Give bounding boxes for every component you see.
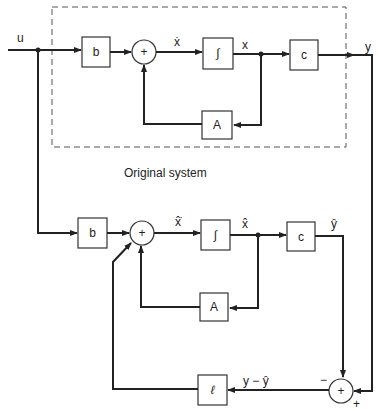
wire-x-to-A: [234, 54, 261, 125]
yhat-label: ŷ: [331, 218, 337, 230]
gain-c-label-observer: c: [287, 230, 315, 244]
input-label-u: u: [17, 32, 24, 44]
sum-symbol-observer: +: [130, 226, 154, 240]
gain-l-label: ℓ: [198, 383, 227, 397]
output-label-y: y: [365, 41, 371, 53]
gain-A-label-observer: A: [200, 300, 228, 314]
original-system-boundary: [52, 7, 346, 147]
integrator-label-top: ∫: [203, 46, 233, 60]
gain-b-label-observer: b: [78, 226, 107, 240]
wire-y-down: [352, 55, 372, 391]
wire-u-to-observer-b: [38, 50, 77, 233]
wire-A-to-sum-observer: [141, 246, 200, 307]
block-diagram: [0, 0, 378, 409]
x-label: x: [242, 39, 248, 51]
xhatdot-label: x̂̇: [175, 216, 181, 228]
gain-b-label-top: b: [82, 45, 110, 59]
wire-A-to-sum: [144, 65, 202, 124]
xdot-label: ẋ: [174, 36, 180, 48]
sum-symbol-error: +: [329, 384, 353, 398]
wire-l-to-sum-observer: [113, 243, 198, 389]
minus-sign: −: [320, 373, 327, 387]
plus-sign: +: [353, 397, 360, 409]
xhat-label: x̂: [242, 218, 248, 230]
wire-xhat-to-A: [230, 235, 258, 308]
sum-symbol-top: +: [132, 45, 156, 59]
original-system-caption: Original system: [124, 166, 207, 180]
gain-A-label-top: A: [202, 118, 232, 132]
wire-yhat-down: [315, 236, 343, 377]
gain-c-label-top: c: [290, 48, 318, 62]
error-label: y − ŷ: [243, 375, 269, 387]
integrator-label-observer: ∫: [201, 228, 230, 242]
